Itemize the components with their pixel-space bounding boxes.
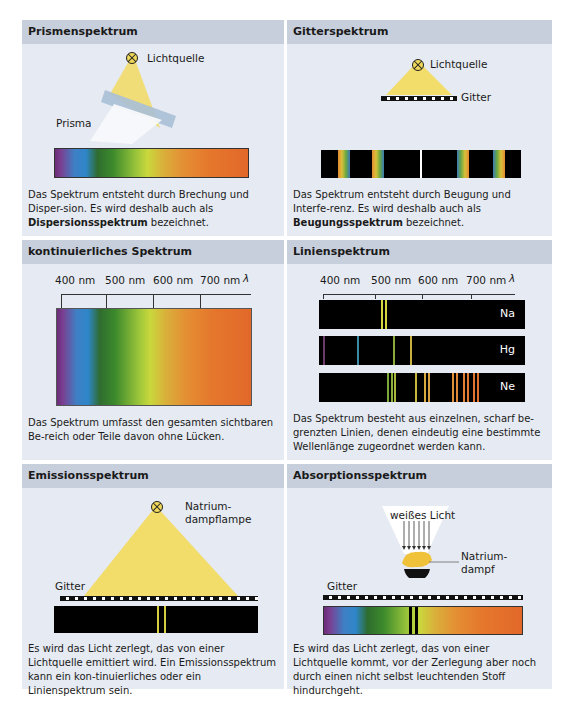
spectrum-bar-hg: Hg [319, 336, 525, 365]
grating-strip [323, 595, 523, 600]
light-source-label: Lichtquelle [430, 58, 487, 70]
absorption-spectrum-bar [323, 606, 523, 635]
white-light-label: weißes Licht [390, 509, 455, 521]
grating-label: Gitter [461, 91, 491, 103]
lamp-label-line1: Natrium- [185, 500, 231, 512]
axis-label-400: 400 nm [320, 274, 360, 286]
grating-spectrum-bar [321, 150, 521, 178]
grating-diagram [287, 44, 552, 104]
panel-description: Das Spektrum entsteht durch Beugung und … [293, 188, 546, 230]
axis-label-500: 500 nm [371, 274, 411, 286]
axis-label-600: 600 nm [153, 274, 193, 286]
prism-label: Prisma [56, 117, 92, 129]
panel-title: kontinuierliches Spektrum [22, 240, 284, 264]
sodium-lamp-icon [151, 501, 163, 513]
element-label: Ne [500, 380, 515, 393]
panel-continuous-spectrum: kontinuierliches Spektrum 400 nm 500 nm … [22, 240, 284, 460]
grating-strip [60, 596, 258, 601]
light-source-icon [412, 59, 424, 71]
panel-title: Prismenspektrum [22, 20, 284, 44]
lamp-label-line2: dampflampe [185, 513, 251, 525]
panel-description: Es wird das Licht zerlegt, das von einer… [28, 642, 278, 698]
wavelength-axis [323, 294, 515, 295]
axis-label-500: 500 nm [105, 274, 145, 286]
light-source-label: Lichtquelle [147, 52, 204, 64]
light-source-icon [126, 52, 138, 64]
axis-label-400: 400 nm [55, 274, 95, 286]
panel-description: Das Spektrum entsteht durch Brechung und… [28, 188, 278, 230]
spectrum-bar-ne: Ne [319, 373, 525, 402]
panel-title: Gitterspektrum [287, 20, 552, 44]
grating-strip [381, 96, 457, 101]
grating-label: Gitter [55, 580, 85, 592]
panel-title: Linienspektrum [287, 240, 552, 264]
vapor-label-line1: Natrium- [461, 550, 507, 562]
panel-title: Absorptionsspektrum [287, 464, 552, 488]
panel-absorption-spectrum: Absorptionsspektrum weißes Licht Natrium… [287, 464, 552, 689]
panel-grating-spectrum: Gitterspektrum Lichtquelle Gitter Das Sp… [287, 20, 552, 236]
panel-line-spectrum: Linienspektrum 400 nm 500 nm 600 nm 700 … [287, 240, 552, 460]
vapor-label-line2: dampf [461, 563, 495, 575]
emission-spectrum-bar [54, 606, 258, 633]
lambda-symbol: λ [243, 272, 249, 284]
wavelength-axis [61, 294, 251, 295]
panel-prism-spectrum: Prismenspektrum Lichtquelle Prisma Das S… [22, 20, 284, 236]
panel-description: Das Spektrum besteht aus einzelnen, scha… [293, 412, 546, 454]
prism-spectrum-bar [54, 148, 249, 178]
element-label: Hg [500, 343, 515, 356]
panel-description: Es wird das Licht zerlegt, das von einer… [293, 642, 546, 698]
continuous-spectrum-bar [56, 308, 252, 406]
axis-label-600: 600 nm [418, 274, 458, 286]
axis-label-700: 700 nm [466, 274, 506, 286]
grating-label: Gitter [327, 580, 357, 592]
absorption-diagram [287, 488, 552, 578]
element-label: Na [500, 307, 515, 320]
panel-emission-spectrum: Emissionsspektrum Natrium- dampflampe Gi… [22, 464, 284, 689]
panel-title: Emissionsspektrum [22, 464, 284, 488]
axis-label-700: 700 nm [200, 274, 240, 286]
lambda-symbol: λ [509, 272, 515, 284]
spectrum-bar-na: Na [319, 300, 525, 329]
panel-description: Das Spektrum umfasst den gesamten sichtb… [28, 416, 278, 444]
